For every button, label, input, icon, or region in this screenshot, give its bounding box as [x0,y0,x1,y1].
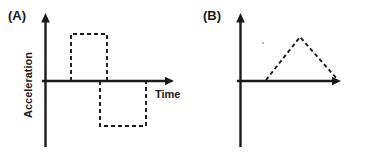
panel-a-y-axis-arrowhead [41,13,50,23]
panel-b-trace-triangular-ramp [266,37,338,80]
panel-b-plot-area [195,0,391,154]
panel-a-acceleration-vs-time: (A) Acceleration Time [0,0,195,154]
panel-b-velocity-vs-time: (B) Velocity Time [195,0,391,154]
figure-two-panel-kinematics-graphs: (A) Acceleration Time (B) Velocity Time [0,0,391,154]
panel-b-label: (B) [203,8,221,23]
panel-a-x-axis-label: Time [155,88,180,100]
panel-a-trace-negative-pulse [100,81,146,126]
panel-b-x-axis-arrowhead [332,77,341,86]
panel-a-label: (A) [8,8,26,23]
panel-b-y-axis-arrowhead [236,13,245,23]
scan-artifact-speck [262,42,264,44]
panel-a-trace-positive-pulse [71,34,107,81]
panel-a-x-axis-arrowhead [165,77,174,86]
panel-a-y-axis-label: Acceleration [22,52,34,118]
